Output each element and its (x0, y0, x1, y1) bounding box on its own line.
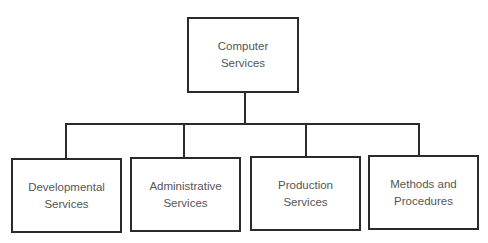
connector-child-2 (183, 123, 185, 158)
node-production-services: Production Services (250, 156, 361, 231)
connector-child-4 (418, 123, 420, 157)
node-methods-and-procedures: Methods and Procedures (368, 155, 479, 230)
connector-child-1 (65, 123, 67, 159)
connector-horizontal (65, 123, 420, 125)
node-label: Procedures (390, 193, 457, 210)
node-label: Methods and (390, 176, 457, 193)
node-label: Services (278, 194, 333, 211)
node-developmental-services: Developmental Services (11, 158, 122, 233)
node-label: Services (28, 196, 105, 213)
node-administrative-services: Administrative Services (130, 157, 241, 232)
node-label: Computer (218, 38, 269, 55)
node-computer-services: Computer Services (187, 17, 299, 93)
node-label: Services (218, 55, 269, 72)
connector-root-down (244, 92, 246, 125)
connector-child-3 (305, 123, 307, 157)
node-label: Administrative (149, 178, 221, 195)
node-label: Developmental (28, 179, 105, 196)
node-label: Services (149, 195, 221, 212)
node-label: Production (278, 177, 333, 194)
